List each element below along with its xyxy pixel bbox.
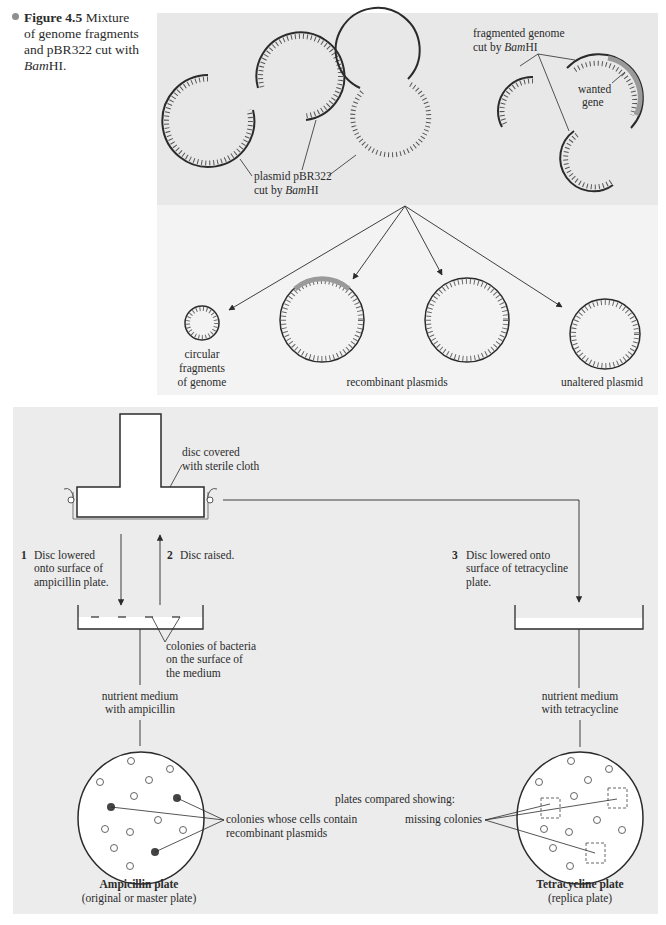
circular-fragments-line1: circular [184,348,219,360]
recombinant-colonies-line2: recombinant plasmids [226,827,328,840]
step3-line2: surface of tetracycline [466,562,568,575]
missing-colonies-label: missing colonies [405,813,483,826]
amp-plate-subtitle: (original or master plate) [82,892,197,905]
step1-line3: ampicillin plate. [34,576,109,589]
cloth-clip-left [68,497,74,503]
step3-line3: plate. [466,576,491,589]
colonies-line2: on the surface of [166,653,243,665]
recombinant-label: recombinant plasmids [346,376,448,389]
colonies-line1: colonies of bacteria [166,640,256,652]
tetracycline-plate [517,752,643,884]
wanted-gene-line1: wanted [578,83,611,95]
amp-plate-title: Ampicillin plate [100,878,179,891]
circular-fragments-line2: fragments [179,362,226,375]
step1-number: 1 [21,549,27,561]
tet-plate-subtitle: (replica plate) [548,892,612,905]
top-panel-bg [157,13,658,205]
disc-label-line2: with sterile cloth [182,460,260,472]
plasmid-label-line1: plasmid pBR322 [254,170,332,183]
medium-tet-line2: with tetracycline [542,703,619,716]
medium-amp-line1: nutrient medium [102,690,178,702]
step1-line2: onto surface of [34,562,103,574]
step3-number: 3 [452,549,458,561]
figure-diagram: plasmid pBR322 cut by BamHI fragmented g… [0,0,666,925]
step1-line1: Disc lowered [34,549,95,561]
step2-text: Disc raised. [180,549,234,561]
medium-amp-line2: with ampicillin [105,703,175,716]
wanted-gene-line2: gene [582,96,604,109]
cloth-clip-right [207,497,213,503]
step3-line1: Disc lowered onto [466,549,551,561]
compared-label: plates compared showing: [335,793,455,806]
medium-tet-line1: nutrient medium [542,690,618,702]
unaltered-label: unaltered plasmid [561,376,643,389]
tet-plate-title: Tetracycline plate [536,878,623,891]
circular-fragments-line3: of genome [178,376,227,389]
products-panel-bg [157,205,658,395]
plasmid-label-line2: cut by BamHI [254,184,319,197]
colonies-line3: the medium [166,667,221,679]
ampicillin-plate [78,752,204,884]
step2-number: 2 [167,549,173,561]
disc-label-line1: disc covered [182,446,240,458]
genome-label-line1: fragmented genome [473,27,565,40]
recombinant-colonies-line1: colonies whose cells contain [226,813,358,825]
genome-label-line2: cut by BamHI [473,41,538,54]
